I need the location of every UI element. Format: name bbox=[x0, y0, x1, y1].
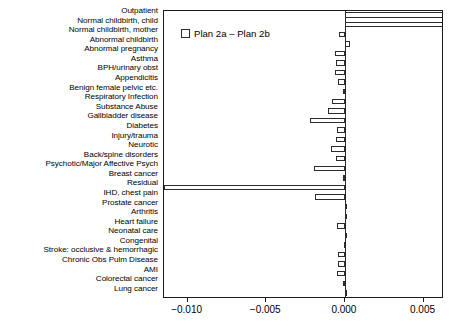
category-label: Colorectal cancer bbox=[0, 274, 158, 284]
bar bbox=[315, 194, 345, 199]
zero-baseline bbox=[345, 11, 346, 297]
category-label: IHD, chest pain bbox=[0, 188, 158, 198]
bar-row bbox=[164, 59, 442, 69]
category-label: Lung cancer bbox=[0, 284, 158, 294]
bar bbox=[336, 137, 345, 142]
category-label: Benign female pelvic etc. bbox=[0, 83, 158, 93]
x-tick-label: −0.005 bbox=[250, 304, 281, 315]
category-label: Diabetes bbox=[0, 121, 158, 131]
x-tick-label: 0.000 bbox=[331, 304, 356, 315]
category-label: Asthma bbox=[0, 54, 158, 64]
category-label: Substance Abuse bbox=[0, 102, 158, 112]
category-label: Normal childbirth, mother bbox=[0, 25, 158, 35]
category-label: Neonatal care bbox=[0, 226, 158, 236]
bar bbox=[337, 271, 345, 276]
category-label: Breast cancer bbox=[0, 169, 158, 179]
category-label: Prostate cancer bbox=[0, 198, 158, 208]
x-tick-label: 0.005 bbox=[410, 304, 435, 315]
category-label: Residual bbox=[0, 178, 158, 188]
bar bbox=[336, 60, 345, 65]
plot-area: Plan 2a – Plan 2b bbox=[163, 10, 443, 298]
category-label: Outpatient bbox=[0, 6, 158, 16]
legend-label: Plan 2a – Plan 2b bbox=[194, 28, 270, 39]
bar-row bbox=[164, 222, 442, 232]
bar-row bbox=[164, 164, 442, 174]
bar-row bbox=[164, 78, 442, 88]
bar bbox=[338, 261, 345, 266]
bar bbox=[345, 12, 443, 17]
bar bbox=[335, 70, 344, 75]
bar-row bbox=[164, 260, 442, 270]
category-label: Heart failure bbox=[0, 217, 158, 227]
category-axis-labels: OutpatientNormal childbirth, childNormal… bbox=[0, 6, 158, 293]
bar bbox=[331, 146, 345, 151]
bar bbox=[336, 156, 345, 161]
bar-row bbox=[164, 97, 442, 107]
bar-row bbox=[164, 270, 442, 280]
bar bbox=[345, 22, 443, 27]
bar-row bbox=[164, 107, 442, 117]
category-label: Normal childbirth, child bbox=[0, 16, 158, 26]
category-label: Appendicitis bbox=[0, 73, 158, 83]
category-label: Neurotic bbox=[0, 140, 158, 150]
category-label: Abnormal pregnancy bbox=[0, 44, 158, 54]
bar-row bbox=[164, 68, 442, 78]
category-label: Stroke: occlusive & hemorrhagic bbox=[0, 245, 158, 255]
category-label: Chronic Obs Pulm Disease bbox=[0, 255, 158, 265]
bar-row bbox=[164, 279, 442, 289]
bar bbox=[337, 127, 345, 132]
bar-row bbox=[164, 155, 442, 165]
x-tick-mark bbox=[344, 298, 345, 302]
bar bbox=[338, 252, 345, 257]
bar-row bbox=[164, 88, 442, 98]
horizontal-bar-chart: OutpatientNormal childbirth, childNormal… bbox=[0, 0, 452, 329]
bar bbox=[310, 118, 345, 123]
category-label: AMI bbox=[0, 265, 158, 275]
category-label: BPH/urinary obst bbox=[0, 63, 158, 73]
bar-row bbox=[164, 126, 442, 136]
category-label: Back/spine disorders bbox=[0, 150, 158, 160]
bar-row bbox=[164, 11, 442, 21]
bar bbox=[328, 108, 345, 113]
x-tick-mark bbox=[187, 298, 188, 302]
bar-row bbox=[164, 212, 442, 222]
bar-row bbox=[164, 136, 442, 146]
bar bbox=[164, 185, 345, 190]
bar-row bbox=[164, 250, 442, 260]
category-label: Arthritis bbox=[0, 207, 158, 217]
category-label: Injury/trauma bbox=[0, 131, 158, 141]
bar-row bbox=[164, 193, 442, 203]
category-label: Psychotic/Major Affective Psych bbox=[0, 159, 158, 169]
x-tick-label: −0.010 bbox=[171, 304, 202, 315]
bar-row bbox=[164, 116, 442, 126]
bar-row bbox=[164, 145, 442, 155]
bar-series bbox=[164, 11, 442, 297]
category-label: Gallbladder disease bbox=[0, 111, 158, 121]
x-tick-mark bbox=[265, 298, 266, 302]
bar-row bbox=[164, 231, 442, 241]
bar bbox=[337, 223, 345, 228]
bar bbox=[314, 166, 345, 171]
bar-row bbox=[164, 203, 442, 213]
bar bbox=[332, 99, 345, 104]
category-label: Congenital bbox=[0, 236, 158, 246]
bar-row bbox=[164, 174, 442, 184]
bar bbox=[338, 79, 345, 84]
bar bbox=[335, 51, 345, 56]
legend-swatch-icon bbox=[181, 29, 190, 38]
bar-row bbox=[164, 183, 442, 193]
legend: Plan 2a – Plan 2b bbox=[181, 28, 270, 39]
bar-row bbox=[164, 49, 442, 59]
category-label: Respiratory Infection bbox=[0, 92, 158, 102]
bar-row bbox=[164, 289, 442, 298]
bar-row bbox=[164, 40, 442, 50]
bar-row bbox=[164, 241, 442, 251]
x-tick-mark bbox=[423, 298, 424, 302]
category-label: Abnormal childbirth bbox=[0, 35, 158, 45]
